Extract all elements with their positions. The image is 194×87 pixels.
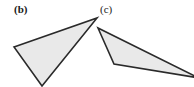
panel-label-b: (b): [14, 4, 27, 15]
triangle-b-shape: [14, 18, 97, 86]
figure-container: (b) (c): [0, 0, 194, 87]
shapes-canvas: [0, 0, 194, 87]
panel-label-c: (c): [100, 4, 112, 15]
triangle-c-shape: [98, 28, 194, 78]
